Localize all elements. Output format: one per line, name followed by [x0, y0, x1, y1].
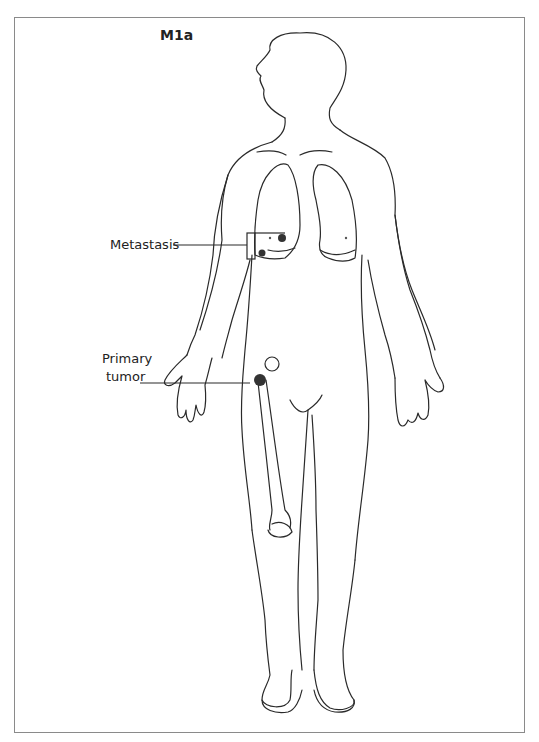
groin	[290, 395, 322, 412]
right-lung	[255, 164, 300, 259]
neck-left	[272, 118, 285, 142]
femur-knee	[268, 522, 292, 537]
left-leg-inner	[298, 410, 308, 670]
left-foot	[262, 690, 302, 713]
lung-lesion-2	[259, 250, 266, 257]
right-shoulder	[340, 130, 435, 350]
human-body-diagram	[0, 0, 539, 742]
left-lung-base	[320, 250, 355, 255]
right-leg-outer	[314, 560, 355, 710]
metastasis-box	[247, 233, 255, 259]
left-lung	[313, 165, 356, 261]
left-arm-outer	[187, 175, 228, 355]
left-leg-outer	[252, 530, 292, 707]
clavicle-left	[257, 151, 286, 155]
primary-tumor-lesion	[254, 374, 266, 386]
lung-lesion-1	[278, 234, 286, 242]
femur-head	[265, 357, 279, 371]
right-hand	[395, 378, 444, 426]
left-hand	[165, 355, 212, 422]
torso-right	[355, 255, 369, 560]
torso-left	[241, 255, 252, 530]
right-lung-base	[268, 248, 295, 251]
right-arm-outer	[395, 215, 440, 378]
right-arm-inner	[368, 260, 395, 378]
right-leg-inner	[312, 415, 318, 670]
clavicle-right	[300, 151, 332, 155]
right-nipple	[269, 237, 271, 239]
head-outline	[256, 33, 346, 130]
left-nipple	[345, 237, 347, 239]
left-shoulder	[200, 142, 272, 330]
femur-inner	[266, 380, 291, 528]
